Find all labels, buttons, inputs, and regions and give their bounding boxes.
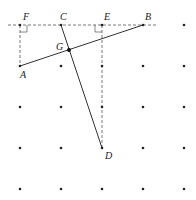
point-G-dot	[67, 48, 71, 52]
label-B: B	[145, 11, 151, 22]
label-D: D	[104, 150, 113, 161]
label-G: G	[56, 41, 63, 52]
segment-CD	[61, 25, 102, 148]
label-A: A	[19, 69, 27, 80]
right-angle-mark-E	[95, 25, 102, 32]
solid-segments	[20, 25, 143, 148]
label-C: C	[60, 11, 67, 22]
label-F: F	[22, 11, 30, 22]
grid-dots	[19, 24, 186, 191]
label-E: E	[103, 11, 110, 22]
right-angle-mark-F	[20, 25, 27, 32]
segment-AB	[20, 25, 143, 66]
geometry-diagram: F C E B G A D	[0, 0, 196, 200]
